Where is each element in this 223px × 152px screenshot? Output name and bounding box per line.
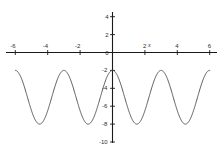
x-tick-label: 2 — [143, 43, 146, 49]
x-tick-label: -6 — [10, 43, 15, 49]
x-axis-label: x — [148, 42, 151, 48]
x-tick-label: 4 — [175, 43, 178, 49]
y-tick-label: 2 — [105, 32, 108, 38]
plot-area — [0, 0, 223, 152]
y-tick-label: -10 — [99, 139, 108, 145]
y-tick-label: -8 — [102, 121, 107, 127]
chart-figure: -6-4-2246420-2-4-6-8-10 x — [0, 0, 223, 152]
y-tick-label: -6 — [102, 103, 107, 109]
x-tick-label: 6 — [208, 43, 211, 49]
x-tick-label: -4 — [43, 43, 48, 49]
x-tick-label: -2 — [75, 43, 80, 49]
y-tick-label: -2 — [102, 67, 107, 73]
y-tick-label: -4 — [102, 85, 107, 91]
y-tick-label: 4 — [105, 14, 108, 20]
origin-label: 0 — [105, 50, 108, 56]
